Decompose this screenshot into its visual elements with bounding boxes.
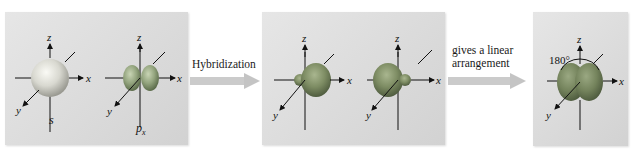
sp-combined-figure: 180° z x y — [545, 33, 624, 130]
sp-hybrid-panel: z x y z x y — [262, 12, 445, 145]
label-line-2: arrangement — [452, 57, 513, 70]
px-orbital-label: px — [135, 121, 146, 137]
z-axis-label: z — [394, 32, 400, 44]
z-axis-label: z — [46, 31, 52, 43]
y-axis-label: y — [545, 109, 551, 121]
atomic-orbitals-panel: z x y s z x y px — [5, 12, 188, 145]
linear-arrangement-arrow — [448, 72, 526, 90]
sp-hybrid-1-figure: z x y — [272, 32, 352, 130]
hybridization-label: Hybridization — [192, 58, 256, 71]
linear-arrangement-label: gives a linear arrangement — [452, 44, 513, 70]
sp-hybrid-figure: z x y z x y — [262, 12, 445, 145]
x-axis-label: x — [176, 72, 182, 84]
s-orbital-label: s — [49, 113, 54, 127]
y-axis-label: y — [272, 109, 278, 121]
px-orbital-figure: z x y px — [105, 31, 182, 137]
x-axis-label: x — [618, 75, 624, 87]
z-axis-label: z — [301, 32, 307, 44]
y-axis-label: y — [106, 105, 112, 117]
x-axis-label: x — [85, 72, 91, 84]
s-orbital-figure: z x y s — [15, 31, 91, 132]
y-axis-label: y — [15, 104, 21, 116]
z-axis-label: z — [576, 33, 582, 45]
linear-arrangement-figure: 180° z x y — [533, 12, 628, 146]
x-axis-label: x — [346, 74, 352, 86]
label-line-1: gives a linear — [452, 44, 513, 57]
sp-hybrid-2-figure: z x y — [365, 32, 441, 130]
z-axis-label: z — [136, 31, 142, 43]
linear-arrangement-panel: 180° z x y — [533, 12, 628, 146]
atomic-orbitals-figure: z x y s z x y px — [5, 12, 188, 145]
hybridization-arrow — [190, 72, 260, 90]
x-axis-label: x — [435, 74, 441, 86]
y-axis-label: y — [365, 109, 371, 121]
angle-label: 180° — [549, 54, 570, 66]
